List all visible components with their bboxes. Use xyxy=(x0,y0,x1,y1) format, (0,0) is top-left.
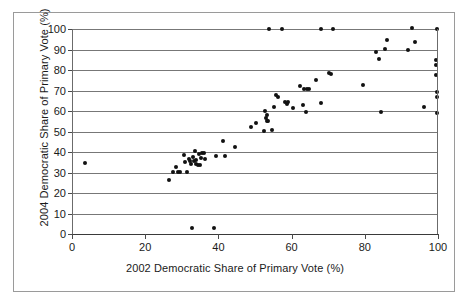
gridline xyxy=(72,29,438,30)
data-point xyxy=(202,151,206,155)
data-point xyxy=(374,50,378,54)
x-tick-mark xyxy=(438,234,439,239)
data-point xyxy=(182,153,186,157)
data-point xyxy=(434,58,438,62)
data-point xyxy=(270,128,274,132)
data-point xyxy=(435,111,439,115)
data-point xyxy=(434,73,438,77)
data-point xyxy=(178,170,182,174)
x-tick-mark xyxy=(72,234,73,239)
data-point xyxy=(267,27,271,31)
data-point xyxy=(265,113,269,117)
y-tick-label: 20 xyxy=(54,187,66,199)
data-point xyxy=(385,38,389,42)
gridline xyxy=(72,234,438,235)
data-point xyxy=(319,101,323,105)
y-tick-mark xyxy=(68,111,72,112)
x-tick-label: 60 xyxy=(285,241,297,253)
y-tick-mark xyxy=(68,214,72,215)
data-point xyxy=(435,27,439,31)
gridline xyxy=(72,91,438,92)
data-point xyxy=(198,163,202,167)
data-point xyxy=(304,110,308,114)
y-tick-mark xyxy=(68,193,72,194)
data-point xyxy=(435,90,439,94)
data-point xyxy=(435,95,439,99)
y-tick-label: 70 xyxy=(54,85,66,97)
data-point xyxy=(254,121,258,125)
y-tick-label: 10 xyxy=(54,208,66,220)
data-point xyxy=(266,119,270,123)
y-tick-label: 0 xyxy=(60,228,66,240)
y-tick-mark xyxy=(68,132,72,133)
data-point xyxy=(329,72,333,76)
data-point xyxy=(272,105,276,109)
data-point xyxy=(223,154,227,158)
data-point xyxy=(379,110,383,114)
y-tick-label: 90 xyxy=(54,44,66,56)
data-point xyxy=(190,226,194,230)
data-point xyxy=(413,40,417,44)
y-tick-mark xyxy=(68,152,72,153)
data-point xyxy=(301,103,305,107)
y-tick-mark xyxy=(68,70,72,71)
data-point xyxy=(174,165,178,169)
x-tick-label: 100 xyxy=(429,241,447,253)
x-tick-label: 80 xyxy=(359,241,371,253)
x-tick-mark xyxy=(218,234,219,239)
gridline xyxy=(72,132,438,133)
data-point xyxy=(286,100,290,104)
y-tick-label: 80 xyxy=(54,64,66,76)
gridline xyxy=(72,173,438,174)
x-tick-mark xyxy=(365,234,366,239)
data-point xyxy=(221,139,225,143)
gridline xyxy=(72,111,438,112)
data-point xyxy=(406,48,410,52)
x-tick-label: 40 xyxy=(212,241,224,253)
data-point xyxy=(314,78,318,82)
plot-area: 0102030405060708090100 020406080100 xyxy=(72,29,438,234)
x-axis-title: 2002 Democratic Share of Primary Vote (%… xyxy=(14,262,456,274)
x-tick-mark xyxy=(145,234,146,239)
data-point xyxy=(291,106,295,110)
y-tick-mark xyxy=(68,173,72,174)
y-tick-mark xyxy=(68,50,72,51)
x-tick-mark xyxy=(292,234,293,239)
data-point xyxy=(185,170,189,174)
data-point xyxy=(249,125,253,129)
data-point xyxy=(212,226,216,230)
gridline xyxy=(72,70,438,71)
data-point xyxy=(377,57,381,61)
data-point xyxy=(434,63,438,67)
y-tick-label: 60 xyxy=(54,105,66,117)
y-tick-label: 30 xyxy=(54,167,66,179)
data-point xyxy=(276,95,280,99)
data-point xyxy=(214,154,218,158)
scatter-chart-figure: 2004 Democratic Share of Primary Vote (%… xyxy=(13,12,455,292)
data-point xyxy=(319,27,323,31)
data-point xyxy=(331,27,335,31)
y-tick-mark xyxy=(68,91,72,92)
data-point xyxy=(167,178,171,182)
data-point xyxy=(203,157,207,161)
data-point xyxy=(193,149,197,153)
x-tick-label: 0 xyxy=(69,241,75,253)
y-axis-title: 2004 Democratic Share of Primary Vote (%… xyxy=(38,12,50,227)
y-tick-label: 40 xyxy=(54,146,66,158)
data-point xyxy=(183,160,187,164)
gridline xyxy=(72,193,438,194)
data-point xyxy=(233,145,237,149)
y-tick-label: 100 xyxy=(48,23,66,35)
y-tick-mark xyxy=(68,29,72,30)
data-point xyxy=(422,105,426,109)
data-point xyxy=(171,170,175,174)
data-point xyxy=(280,27,284,31)
x-tick-label: 20 xyxy=(139,241,151,253)
data-point xyxy=(194,158,198,162)
gridline xyxy=(72,214,438,215)
gridline xyxy=(72,152,438,153)
y-tick-label: 50 xyxy=(54,126,66,138)
data-point xyxy=(83,161,87,165)
data-point xyxy=(361,83,365,87)
